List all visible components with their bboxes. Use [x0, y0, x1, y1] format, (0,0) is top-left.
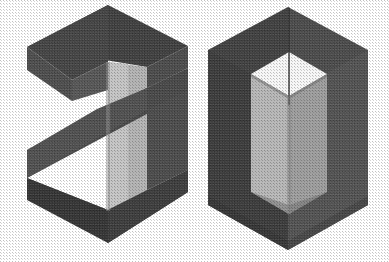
logo-canvas: 20 [0, 0, 389, 262]
two-pillar-highlight-face [108, 62, 128, 210]
two-pillar-left-edge [106, 62, 110, 211]
zero-shaft-center-edge [287, 96, 291, 214]
isometric-20-logo [0, 0, 389, 262]
zero-top-ridge-crease [288, 7, 290, 105]
